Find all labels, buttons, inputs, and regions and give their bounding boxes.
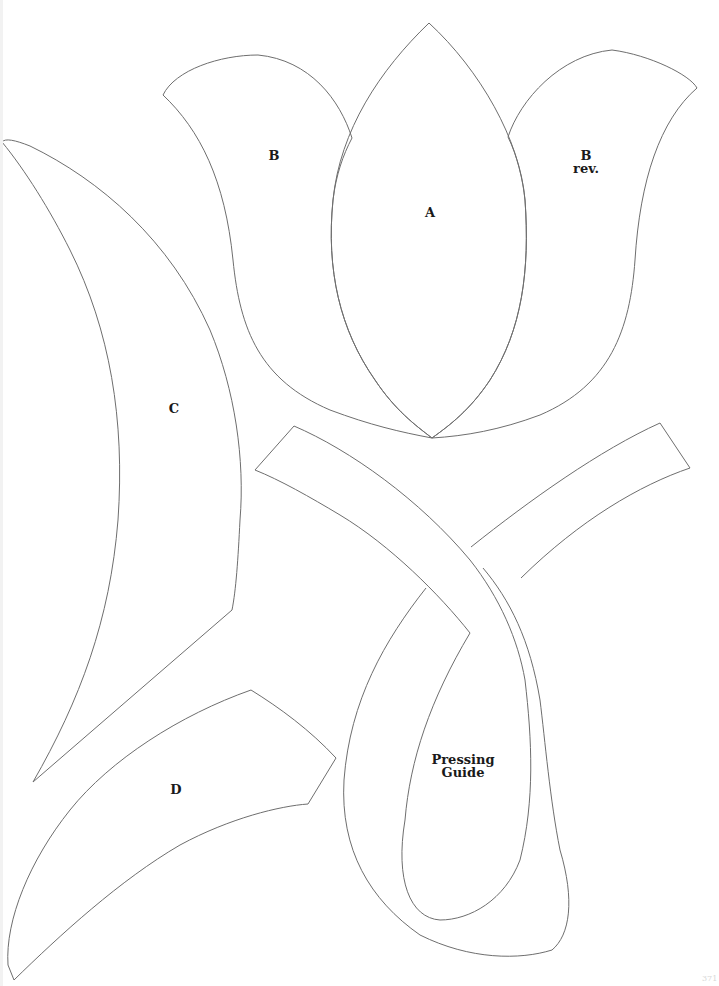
pressing-guide-label: Pressing Guide (431, 753, 494, 779)
piece-b-label: B (269, 149, 280, 162)
piece-b-outline (163, 55, 432, 438)
piece-b-rev-label-line2: rev. (573, 162, 599, 175)
piece-b-rev-outline (432, 50, 697, 438)
pattern-page: B A B rev. C D Pressing Guide 371 (0, 0, 719, 986)
pressing-guide-label-line2: Guide (431, 766, 494, 779)
piece-d-outline (8, 690, 336, 980)
page-edge-shadow (0, 0, 3, 986)
piece-d-label: D (170, 783, 181, 796)
pattern-outlines (0, 0, 719, 986)
piece-c-label: C (169, 402, 179, 415)
piece-a-label: A (425, 206, 435, 219)
page-mark: 371 (702, 974, 717, 983)
piece-a-outline (331, 23, 526, 438)
stem-left-arm-outline (255, 426, 531, 920)
piece-b-rev-label: B rev. (573, 149, 599, 175)
piece-c-outline (2, 140, 241, 782)
stem-right-arm-outline (471, 423, 690, 578)
